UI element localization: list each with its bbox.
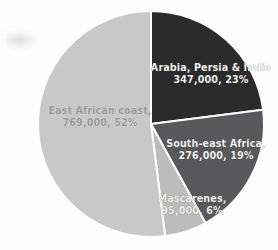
pie-slice	[151, 11, 263, 124]
pie-chart: Arabia, Persia & India 347,000, 23% Sout…	[0, 0, 278, 250]
pie-chart-svg	[0, 0, 278, 250]
pie-slice	[38, 11, 165, 237]
pie-slice-group	[38, 11, 264, 237]
